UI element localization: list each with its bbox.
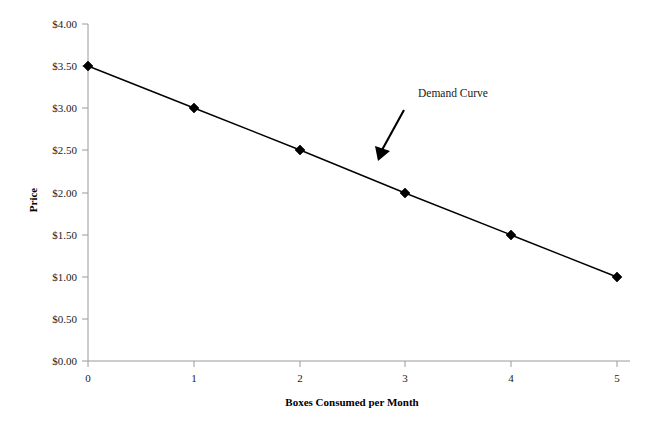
x-axis-title: Boxes Consumed per Month bbox=[285, 396, 418, 408]
x-tick-label: 0 bbox=[85, 372, 91, 384]
y-tick-label: $1.00 bbox=[52, 271, 77, 283]
y-tick-label: $4.00 bbox=[52, 18, 77, 30]
demand-curve-chart: $4.00 $3.50 $3.00 $2.50 $2.00 $1.50 $1.0… bbox=[0, 0, 655, 427]
y-tick-label: $0.00 bbox=[52, 355, 77, 367]
chart-page: $4.00 $3.50 $3.00 $2.50 $2.00 $1.50 $1.0… bbox=[0, 0, 655, 427]
y-tick-label: $3.00 bbox=[52, 102, 77, 114]
y-tick-label: $3.50 bbox=[52, 60, 77, 72]
x-tick-label: 4 bbox=[508, 372, 514, 384]
chart-background bbox=[0, 0, 655, 427]
demand-curve-annotation-label: Demand Curve bbox=[418, 87, 488, 99]
y-axis-title: Price bbox=[27, 188, 39, 213]
x-tick-label: 2 bbox=[297, 372, 303, 384]
x-tick-label: 1 bbox=[191, 372, 197, 384]
x-tick-label: 3 bbox=[402, 372, 408, 384]
x-tick-label: 5 bbox=[614, 372, 620, 384]
y-tick-label: $1.50 bbox=[52, 229, 77, 241]
y-tick-label: $2.50 bbox=[52, 144, 77, 156]
y-tick-label: $0.50 bbox=[52, 313, 77, 325]
y-tick-label: $2.00 bbox=[52, 187, 77, 199]
